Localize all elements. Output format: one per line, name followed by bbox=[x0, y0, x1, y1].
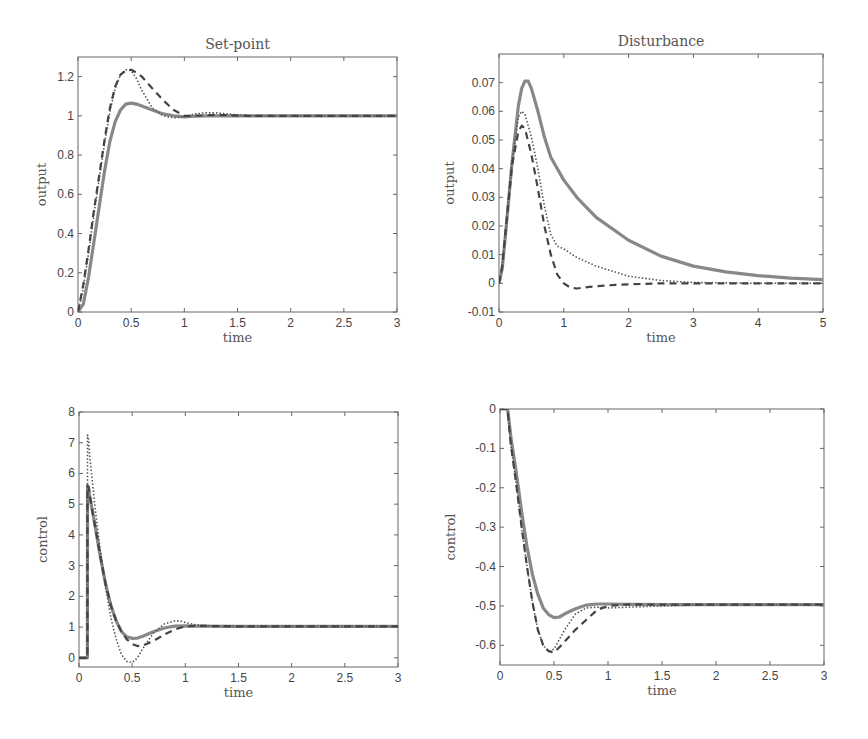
y-tick-label: 6 bbox=[68, 466, 75, 480]
x-tick-label: 5 bbox=[820, 316, 827, 330]
x-tick-label: 0.5 bbox=[546, 669, 563, 683]
x-tick-label: 1.5 bbox=[230, 671, 247, 685]
chart-title: Set-point bbox=[205, 36, 270, 52]
y-tick-label: -0.01 bbox=[468, 305, 496, 319]
plot-disturbance-control: 00.511.522.53-0.6-0.5-0.4-0.3-0.2-0.10ti… bbox=[443, 402, 828, 698]
y-tick-label: 0.06 bbox=[472, 104, 496, 118]
x-tick-label: 2.5 bbox=[336, 671, 353, 685]
x-tick-label: 4 bbox=[755, 316, 762, 330]
x-tick-label: 0 bbox=[75, 316, 82, 330]
x-tick-label: 0.5 bbox=[124, 671, 141, 685]
x-tick-label: 0 bbox=[497, 669, 504, 683]
x-axis-label: time bbox=[647, 683, 677, 698]
x-axis-label: time bbox=[223, 330, 253, 345]
figure-canvas: 00.511.522.5300.20.40.60.811.2Set-pointt… bbox=[0, 0, 868, 739]
y-tick-label: 0.05 bbox=[472, 133, 496, 147]
y-tick-label: 0.03 bbox=[472, 190, 496, 204]
y-tick-label: 0.04 bbox=[472, 162, 496, 176]
y-tick-label: 0.02 bbox=[472, 219, 496, 233]
series-line-solid bbox=[79, 486, 398, 658]
y-tick-label: 4 bbox=[68, 528, 75, 542]
series-line-dashed bbox=[79, 486, 398, 658]
y-tick-label: 5 bbox=[68, 497, 75, 511]
plot-setpoint-output: 00.511.522.5300.20.40.60.811.2Set-pointt… bbox=[34, 36, 401, 345]
x-tick-label: 0 bbox=[496, 316, 503, 330]
plot-setpoint-control: 00.511.522.53012345678timecontrol bbox=[35, 405, 402, 700]
axes-frame bbox=[79, 412, 398, 667]
y-tick-label: 0.01 bbox=[472, 248, 496, 262]
y-tick-label: 1 bbox=[67, 109, 74, 123]
series-line-solid bbox=[78, 103, 397, 312]
y-axis-label: output bbox=[34, 162, 49, 206]
y-tick-label: 1 bbox=[68, 620, 75, 634]
axes-frame bbox=[78, 57, 397, 312]
y-tick-label: -0.5 bbox=[475, 599, 496, 613]
x-axis-label: time bbox=[224, 685, 254, 700]
axes-frame bbox=[500, 409, 824, 665]
y-tick-label: 0.8 bbox=[57, 148, 74, 162]
y-tick-label: -0.6 bbox=[475, 638, 496, 652]
y-tick-label: 0.2 bbox=[57, 266, 74, 280]
y-tick-label: 8 bbox=[68, 405, 75, 419]
y-tick-label: 0.6 bbox=[57, 187, 74, 201]
y-tick-label: -0.4 bbox=[475, 560, 496, 574]
x-tick-label: 1 bbox=[560, 316, 567, 330]
x-tick-label: 1.5 bbox=[654, 669, 671, 683]
y-tick-label: 3 bbox=[68, 559, 75, 573]
x-tick-label: 2 bbox=[625, 316, 632, 330]
series-line-solid bbox=[499, 81, 823, 283]
y-tick-label: 1.2 bbox=[57, 70, 74, 84]
plot-disturbance-output: 012345-0.0100.010.020.030.040.050.060.07… bbox=[442, 33, 827, 345]
axes-frame bbox=[499, 54, 823, 312]
x-tick-label: 3 bbox=[821, 669, 828, 683]
x-tick-label: 2 bbox=[288, 671, 295, 685]
y-tick-label: -0.2 bbox=[475, 481, 496, 495]
series-line-solid bbox=[500, 409, 824, 618]
x-tick-label: 3 bbox=[395, 671, 402, 685]
x-tick-label: 2.5 bbox=[335, 316, 352, 330]
x-tick-label: 1 bbox=[181, 316, 188, 330]
y-axis-label: control bbox=[443, 514, 458, 561]
y-tick-label: -0.3 bbox=[475, 520, 496, 534]
y-tick-label: 7 bbox=[68, 436, 75, 450]
x-tick-label: 1.5 bbox=[229, 316, 246, 330]
chart-title: Disturbance bbox=[618, 33, 705, 49]
y-tick-label: 0.07 bbox=[472, 76, 496, 90]
x-tick-label: 0 bbox=[76, 671, 83, 685]
x-tick-label: 2 bbox=[713, 669, 720, 683]
y-tick-label: 2 bbox=[68, 589, 75, 603]
x-tick-label: 3 bbox=[690, 316, 697, 330]
y-axis-label: output bbox=[442, 161, 457, 205]
y-tick-label: 0 bbox=[488, 276, 495, 290]
y-tick-label: 0 bbox=[67, 305, 74, 319]
x-axis-label: time bbox=[646, 330, 676, 345]
x-tick-label: 0.5 bbox=[123, 316, 140, 330]
series-line-dotted bbox=[79, 435, 398, 662]
y-tick-label: 0 bbox=[68, 651, 75, 665]
x-tick-label: 3 bbox=[394, 316, 401, 330]
y-tick-label: 0.4 bbox=[57, 227, 74, 241]
y-tick-label: 0 bbox=[489, 402, 496, 416]
x-tick-label: 2 bbox=[287, 316, 294, 330]
x-tick-label: 2.5 bbox=[762, 669, 779, 683]
x-tick-label: 1 bbox=[182, 671, 189, 685]
y-axis-label: control bbox=[35, 516, 50, 563]
figure: 00.511.522.5300.20.40.60.811.2Set-pointt… bbox=[0, 0, 868, 739]
y-tick-label: -0.1 bbox=[475, 441, 496, 455]
x-tick-label: 1 bbox=[605, 669, 612, 683]
